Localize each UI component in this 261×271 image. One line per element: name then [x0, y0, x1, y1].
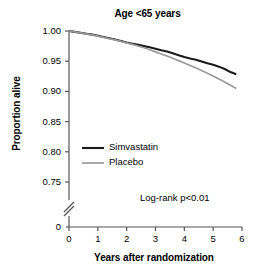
- y-tick-label: 0.80: [29, 146, 61, 157]
- x-tick-marks: [69, 227, 242, 231]
- x-tick-label: 6: [232, 233, 252, 244]
- x-tick-label: 0: [59, 233, 79, 244]
- x-tick-label: 2: [117, 233, 137, 244]
- series-line-placebo: [69, 31, 236, 88]
- logrank-annotation: Log-rank p<0.01: [140, 192, 209, 203]
- series-line-simvastatin: [69, 31, 236, 74]
- survival-curve-figure: Age <65 years Proportion alive Years aft…: [0, 0, 261, 271]
- y-tick-label: 1.00: [29, 25, 61, 36]
- legend-label-placebo: Placebo: [109, 156, 143, 167]
- y-origin-label: 0: [29, 221, 61, 232]
- x-tick-label: 4: [174, 233, 194, 244]
- x-tick-label: 3: [146, 233, 166, 244]
- series-paths: [69, 31, 236, 88]
- x-tick-label: 5: [203, 233, 223, 244]
- x-tick-label: 1: [88, 233, 108, 244]
- y-tick-label: 0.85: [29, 116, 61, 127]
- y-tick-label: 0.90: [29, 85, 61, 96]
- legend-swatches: [82, 148, 104, 163]
- y-tick-label: 0.95: [29, 55, 61, 66]
- legend-label-simvastatin: Simvastatin: [109, 141, 158, 152]
- y-tick-label: 0.75: [29, 176, 61, 187]
